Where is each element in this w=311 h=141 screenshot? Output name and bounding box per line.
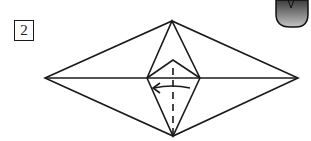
outer-diamond (45, 21, 298, 136)
fold-arrow-icon (153, 83, 190, 93)
origami-diagram (0, 0, 311, 141)
page-tab-icon (276, 0, 308, 27)
